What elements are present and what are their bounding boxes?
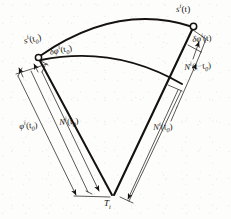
- dphi-t-tick-bottom: [188, 45, 201, 52]
- n-t-t0-tick-lower: [168, 85, 182, 91]
- figure-container: si(t) si(t0) δφi(t0) δφi(t) Ni(t−t0) Ni(…: [0, 0, 231, 219]
- label-n-t0-left: Ni(t0): [59, 117, 79, 127]
- label-delta-phi-t: δφi(t): [192, 34, 212, 44]
- dimension-line-middle: [31, 71, 88, 192]
- label-apex-ti: Ti: [104, 199, 111, 208]
- label-phi-t0: φi(t0): [19, 121, 38, 131]
- label-s-t: si(t): [176, 5, 190, 14]
- phi-t0-arrow: [18, 76, 76, 195]
- n-t0-right-arrow: [128, 90, 178, 199]
- left-dimension-baseline: [74, 196, 110, 197]
- radial-line-right: [114, 30, 192, 195]
- label-n-t-minus-t0: Ni(t−t0): [184, 61, 211, 72]
- label-s-t0: si(t0): [23, 33, 42, 46]
- label-delta-phi-t0: δφi(t0): [49, 44, 73, 57]
- label-n-t0-right: Ni(t0): [153, 122, 173, 131]
- left-dimension-baseline-tick: [86, 191, 92, 194]
- n-t0-right-baseline: [120, 197, 133, 203]
- point-s-t0-marker: [35, 54, 41, 60]
- n-t-t0-ext-lower: [171, 107, 177, 121]
- inner-arc: [41, 56, 182, 84]
- n-t0-left-arrow: [42, 72, 99, 191]
- point-s-t-marker: [190, 23, 196, 29]
